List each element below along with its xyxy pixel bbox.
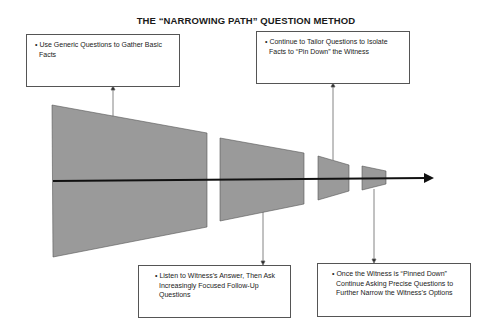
note-bottom-left: • Listen to Witness’s Answer, Then Ask I…: [138, 265, 291, 318]
note-text: • Use Generic Questions to Gather Basic …: [39, 40, 171, 59]
note-top-right: • Continue to Tailor Questions to Isolat…: [256, 31, 410, 84]
arrow-right-icon: [424, 173, 434, 183]
note-text: • Once the Witness is “Pinned Down” Cont…: [336, 269, 462, 298]
note-bottom-right: • Once the Witness is “Pinned Down” Cont…: [317, 263, 471, 317]
note-text: • Continue to Tailor Questions to Isolat…: [269, 37, 401, 56]
note-top-left: • Use Generic Questions to Gather Basic …: [26, 34, 180, 87]
note-text: • Listen to Witness’s Answer, Then Ask I…: [159, 271, 282, 300]
